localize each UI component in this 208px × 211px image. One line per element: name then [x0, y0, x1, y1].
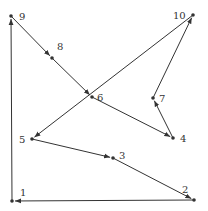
point-label-7: 7 — [159, 93, 165, 104]
point-label-8: 8 — [57, 41, 63, 52]
point-label-9: 9 — [19, 11, 25, 22]
edge-10-5 — [34, 15, 193, 137]
point-label-10: 10 — [173, 10, 186, 21]
point-5 — [30, 137, 34, 141]
point-9 — [9, 14, 13, 18]
point-label-5: 5 — [19, 134, 25, 145]
point-6 — [90, 95, 94, 99]
edge-5-3 — [32, 139, 110, 157]
point-1 — [10, 199, 14, 203]
point-7 — [151, 96, 155, 100]
point-8 — [50, 56, 54, 60]
edges — [11, 15, 194, 201]
point-label-3: 3 — [119, 150, 125, 161]
point-10 — [191, 13, 195, 17]
edge-7-10 — [153, 18, 192, 98]
point-label-2: 2 — [182, 184, 188, 195]
point-2 — [192, 198, 196, 202]
edge-9-8 — [11, 16, 50, 56]
path-diagram: 12345678910 — [0, 0, 208, 211]
point-label-6: 6 — [97, 92, 103, 103]
point-3 — [111, 156, 115, 160]
edge-8-6 — [52, 58, 90, 95]
nodes: 12345678910 — [9, 10, 196, 203]
point-4 — [171, 136, 175, 140]
point-label-1: 1 — [20, 187, 26, 198]
point-label-4: 4 — [180, 133, 186, 144]
edge-1-9 — [11, 19, 12, 201]
edge-2-1 — [15, 200, 194, 201]
edge-4-7 — [154, 101, 173, 138]
edge-3-2 — [113, 158, 191, 199]
